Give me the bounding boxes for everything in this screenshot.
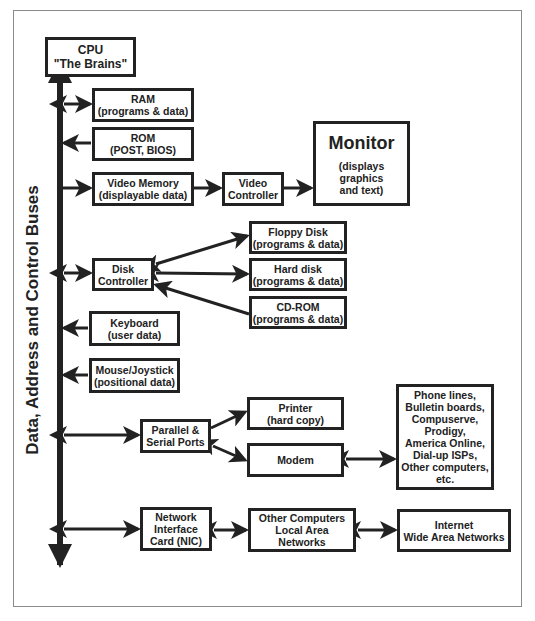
node-ram-title: RAM <box>131 93 155 105</box>
node-phone-line3: Compuserve, <box>412 413 479 425</box>
node-nic-line1: Network <box>155 511 196 523</box>
node-phone-line1: Phone lines, <box>414 389 476 401</box>
node-mouse-joystick: Mouse/Joystick (positional data) <box>89 358 180 393</box>
node-disk-controller-line2: Controller <box>98 275 148 287</box>
node-phone-line7: Other computers, <box>401 461 489 473</box>
node-modem-title: Modem <box>277 454 314 466</box>
node-video-memory: Video Memory (displayable data) <box>92 172 194 206</box>
node-video-controller-line1: Video <box>239 177 267 189</box>
node-monitor: Monitor (displays graphics and text) <box>313 121 410 206</box>
node-cdrom: CD-ROM (programs & data) <box>249 296 347 329</box>
node-cdrom-subtitle: (programs & data) <box>253 313 343 325</box>
node-cpu-subtitle: "The Brains" <box>54 57 127 71</box>
node-video-controller-line2: Controller <box>228 189 278 201</box>
edge-ports-printer <box>211 412 245 428</box>
node-printer: Printer (hard copy) <box>247 397 344 430</box>
edge-ports-modem <box>213 446 245 460</box>
node-disk-controller-line1: Disk <box>112 263 134 275</box>
node-phone-line2: Bulletin boards, <box>405 401 484 413</box>
node-nic-line2: Interface <box>154 523 198 535</box>
node-floppy-disk: Floppy Disk (programs & data) <box>249 221 347 254</box>
node-phone-line6: Dial-up ISPs, <box>413 449 477 461</box>
edge-diskctrl-hdd <box>156 273 247 274</box>
node-keyboard-subtitle: (user data) <box>108 329 162 341</box>
node-video-controller: Video Controller <box>222 172 284 206</box>
node-parallel-serial-ports: Parallel & Serial Ports <box>140 419 211 453</box>
node-cpu-title: CPU <box>78 43 103 57</box>
node-mouse-subtitle: (positional data) <box>94 376 175 388</box>
node-phone-line5: America Online, <box>405 437 485 449</box>
node-cpu: CPU "The Brains" <box>45 37 136 77</box>
node-keyboard-title: Keyboard <box>110 317 158 329</box>
node-monitor-line1: (displays graphics <box>316 160 407 184</box>
node-disk-controller: Disk Controller <box>92 258 154 291</box>
node-cdrom-title: CD-ROM <box>276 301 319 313</box>
node-rom: ROM (POST, BIOS) <box>92 127 194 161</box>
node-lan-line2: Local Area Networks <box>251 524 353 548</box>
node-printer-subtitle: (hard copy) <box>267 414 324 426</box>
node-nic-line3: Card (NIC) <box>150 535 202 547</box>
bus-label: Data, Address and Control Buses <box>23 185 43 455</box>
node-wan-line2: Wide Area Networks <box>403 531 504 543</box>
node-floppy-title: Floppy Disk <box>268 226 328 238</box>
edge-cdrom-diskctrl <box>156 285 249 314</box>
node-phone-line4: Prodigy, <box>424 425 465 437</box>
node-phone-lines: Phone lines, Bulletin boards, Compuserve… <box>396 384 494 490</box>
node-floppy-subtitle: (programs & data) <box>253 238 343 250</box>
node-wan: Internet Wide Area Networks <box>397 509 511 552</box>
node-monitor-line2: and text) <box>340 184 384 196</box>
node-phone-line8: etc. <box>436 473 454 485</box>
node-mouse-title: Mouse/Joystick <box>95 364 173 376</box>
node-ram: RAM (programs & data) <box>92 88 194 122</box>
node-nic: Network Interface Card (NIC) <box>140 507 212 551</box>
node-lan: Other Computers Local Area Networks <box>248 508 356 552</box>
node-video-memory-title: Video Memory <box>107 177 179 189</box>
node-hard-disk-subtitle: (programs & data) <box>253 275 343 287</box>
node-ram-subtitle: (programs & data) <box>98 105 188 117</box>
node-ports-line2: Serial Ports <box>146 436 204 448</box>
node-lan-line1: Other Computers <box>259 512 345 524</box>
node-wan-line1: Internet <box>435 519 474 531</box>
node-printer-title: Printer <box>279 402 313 414</box>
node-modem: Modem <box>247 443 344 477</box>
node-rom-subtitle: (POST, BIOS) <box>110 144 176 156</box>
node-rom-title: ROM <box>131 132 156 144</box>
node-hard-disk: Hard disk (programs & data) <box>249 258 347 291</box>
node-ports-line1: Parallel & <box>152 424 200 436</box>
node-monitor-title: Monitor <box>329 132 395 154</box>
node-video-memory-subtitle: (displayable data) <box>99 189 188 201</box>
node-hard-disk-title: Hard disk <box>274 263 322 275</box>
node-keyboard: Keyboard (user data) <box>89 311 180 346</box>
edge-diskctrl-floppy <box>156 236 247 264</box>
